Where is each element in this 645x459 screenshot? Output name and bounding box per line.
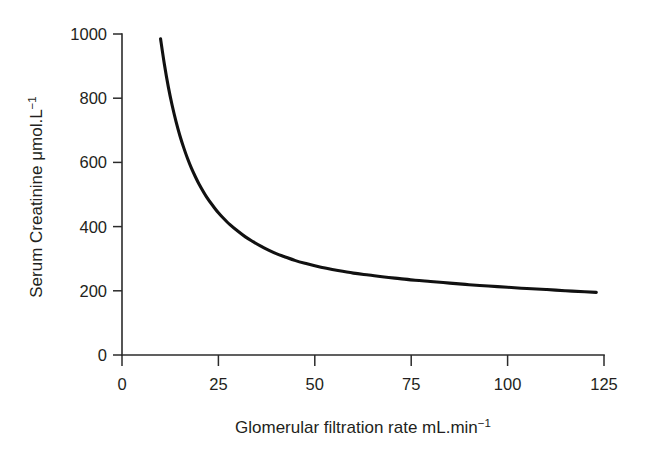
y-tick-label-600: 600 [79,153,107,171]
y-tick-label-200: 200 [79,282,107,300]
x-tick-label-75: 75 [402,375,420,393]
x-axis-title-main: Glomerular filtration rate mL.min [235,418,478,437]
y-tick-label-400: 400 [79,218,107,236]
chart-canvas: 1000 800 600 400 200 0 0 25 50 75 100 12… [0,0,645,459]
y-tick-label-1000: 1000 [70,25,107,43]
y-axis-title-exponent: −1 [26,96,38,109]
x-axis-title-exponent: −1 [478,417,491,429]
y-tick-label-0: 0 [98,346,107,364]
y-tick-label-800: 800 [79,89,107,107]
y-axis-tick-labels: 1000 800 600 400 200 0 [70,25,107,364]
serum-creatinine-curve [161,39,597,293]
x-axis-ticks [122,355,604,366]
y-axis-title-main: Serum Creatinine μmol.L [27,109,46,297]
x-tick-label-100: 100 [494,375,522,393]
y-axis-ticks [113,34,122,355]
x-tick-label-25: 25 [209,375,227,393]
chart-figure: 1000 800 600 400 200 0 0 25 50 75 100 12… [0,0,645,459]
x-tick-label-0: 0 [117,375,126,393]
x-axis-title: Glomerular filtration rate mL.min−1 [235,417,491,437]
x-axis-tick-labels: 0 25 50 75 100 125 [117,375,617,393]
x-tick-label-125: 125 [590,375,618,393]
y-axis-title: Serum Creatinine μmol.L−1 [26,96,46,298]
x-tick-label-50: 50 [306,375,324,393]
